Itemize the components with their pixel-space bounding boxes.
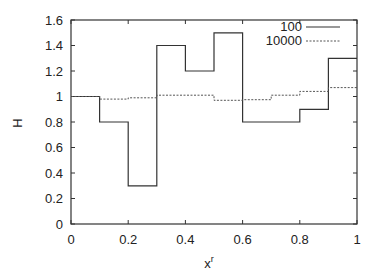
y-tick-label: 1.4 <box>45 38 63 53</box>
y-tick-label: 0.2 <box>45 191 63 206</box>
y-tick-label: 0.4 <box>45 166 63 181</box>
x-tick-label: 0 <box>67 232 74 247</box>
legend-label-100: 100 <box>280 19 302 34</box>
x-tick-label: 0.2 <box>119 232 137 247</box>
x-axis-label: xr <box>204 254 214 271</box>
y-tick-label: 1.2 <box>45 64 63 79</box>
y-axis-label: H <box>10 118 25 127</box>
series-10000 <box>71 88 357 101</box>
y-axis-ticks: 00.20.40.60.811.21.41.6 <box>45 13 357 232</box>
step-chart: 00.20.40.60.811.21.41.6 00.20.40.60.81 H… <box>0 0 375 278</box>
x-tick-label: 1 <box>353 232 360 247</box>
series-group <box>71 33 357 186</box>
x-tick-label: 0.4 <box>176 232 194 247</box>
y-tick-label: 1 <box>56 89 63 104</box>
x-tick-label: 0.8 <box>291 232 309 247</box>
legend: 100 10000 <box>266 19 340 48</box>
y-tick-label: 0.8 <box>45 115 63 130</box>
legend-label-10000: 10000 <box>266 33 302 48</box>
y-tick-label: 0 <box>56 217 63 232</box>
series-100 <box>71 33 357 186</box>
y-tick-label: 0.6 <box>45 140 63 155</box>
chart-container: 00.20.40.60.811.21.41.6 00.20.40.60.81 H… <box>0 0 375 278</box>
x-tick-label: 0.6 <box>234 232 252 247</box>
y-tick-label: 1.6 <box>45 13 63 28</box>
x-axis-label-superscript: r <box>211 254 214 264</box>
